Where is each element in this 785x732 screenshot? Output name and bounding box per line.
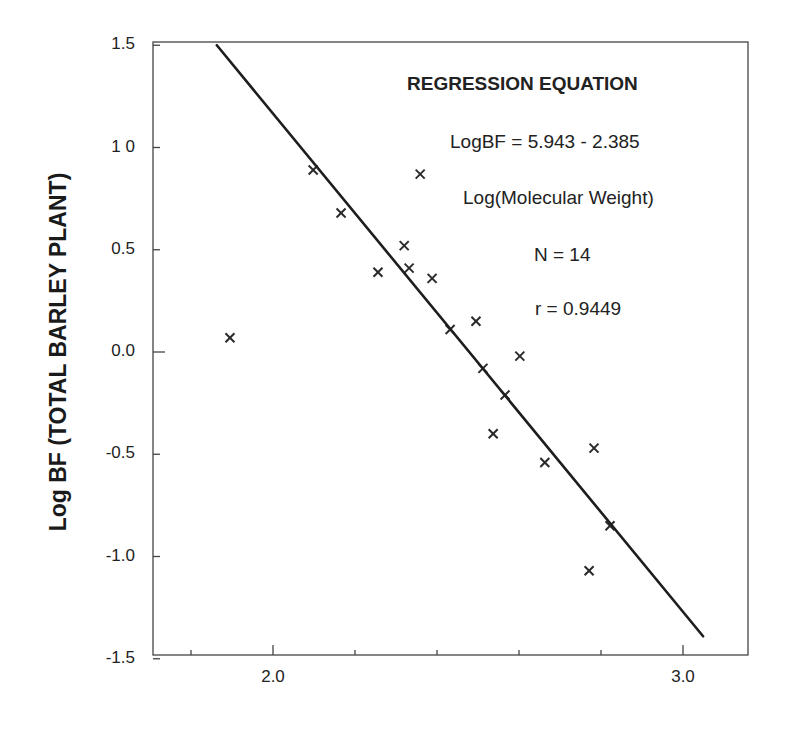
regression-equation-line1: LogBF = 5.943 - 2.385 (450, 131, 640, 153)
y-tick-label: 0.5 (75, 239, 135, 259)
x-marker (585, 566, 594, 575)
x-marker (400, 241, 409, 250)
x-marker (515, 352, 524, 361)
y-tick-label: 0.0 (75, 341, 135, 361)
y-tick-label: 1.5 (75, 34, 135, 54)
x-marker (373, 268, 382, 277)
x-tick-label: 2.0 (243, 667, 303, 687)
y-axis-label: Log BF (TOTAL BARLEY PLANT) (45, 173, 72, 532)
y-tick-label: 1 0 (75, 137, 135, 157)
regression-equation-line2: Log(Molecular Weight) (463, 187, 654, 209)
y-tick-label: -0.5 (75, 443, 135, 463)
x-marker (428, 274, 437, 283)
y-tick-label: -1.5 (75, 648, 135, 668)
x-marker (540, 458, 549, 467)
y-tick-label: -1.0 (75, 546, 135, 566)
x-marker (405, 264, 414, 273)
data-points (225, 165, 614, 575)
x-marker (489, 429, 498, 438)
chart-canvas (0, 0, 785, 732)
regression-title: REGRESSION EQUATION (407, 73, 638, 95)
x-marker (471, 317, 480, 326)
x-marker (416, 170, 425, 179)
x-marker (590, 444, 599, 453)
x-marker (225, 333, 234, 342)
x-marker (337, 208, 346, 217)
correlation-label: r = 0.9449 (535, 298, 621, 320)
sample-size-label: N = 14 (534, 244, 591, 266)
x-tick-label: 3.0 (653, 667, 713, 687)
